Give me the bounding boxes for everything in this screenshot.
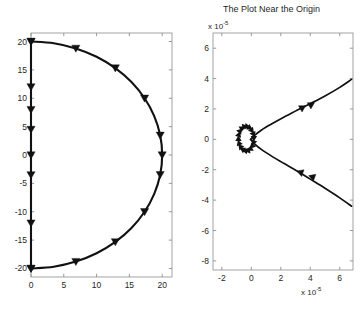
x-tick-label: 10 [92, 280, 102, 290]
y-tick-label: 6 [204, 43, 209, 53]
x-tick-label: 6 [337, 273, 342, 283]
x-tick-label: 2 [278, 273, 283, 283]
y-tick-label: 20 [18, 37, 28, 47]
right-plot-panel: The Plot Near the Origin x 10-5 x 10-5 -… [181, 0, 362, 309]
x-tick-label: 15 [125, 280, 135, 290]
arc-curve [31, 42, 162, 269]
matlab-figure: 0510152020151050-5-10-15-20 The Plot Nea… [0, 0, 362, 309]
origin-marker-cluster [235, 123, 258, 155]
data-marker-triangle-down [27, 126, 35, 133]
y-tick-label: -20 [15, 263, 28, 273]
data-marker-triangle-down [158, 152, 166, 159]
y-tick-label: 0 [204, 134, 209, 144]
x-tick-label: 20 [157, 280, 167, 290]
data-marker-triangle-down [156, 132, 164, 139]
x-tick-label: 0 [29, 280, 34, 290]
y-tick-label: 5 [22, 122, 27, 132]
y-tick-label: 10 [18, 93, 28, 103]
y-tick-label: -8 [201, 256, 209, 266]
data-marker-triangle-down [156, 171, 164, 178]
data-marker-triangle-down [27, 172, 35, 179]
y-tick-label: 2 [204, 104, 209, 114]
data-marker-triangle [305, 100, 314, 109]
y-tick-label: -5 [19, 178, 27, 188]
x-tick-label: 4 [308, 273, 313, 283]
x-tick-label: -2 [218, 273, 226, 283]
data-marker-triangle-down [27, 84, 35, 91]
x-tick-label: 5 [61, 280, 66, 290]
left-plot-axes: 0510152020151050-5-10-15-20 [0, 0, 181, 309]
y-tick-label: -10 [15, 207, 28, 217]
y-tick-label: -15 [15, 235, 28, 245]
data-marker-triangle-down [27, 220, 35, 227]
y-tick-label: -6 [201, 226, 209, 236]
data-marker-triangle-down [27, 106, 35, 113]
y-tick-label: 0 [22, 150, 27, 160]
y-tick-label: 4 [204, 74, 209, 84]
y-tick-label: -4 [201, 195, 209, 205]
y-tick-label: 15 [18, 65, 28, 75]
y-tick-label: -2 [201, 165, 209, 175]
right-plot-axes: -202466420-2-4-6-8 [181, 0, 362, 309]
left-plot-panel: 0510152020151050-5-10-15-20 [0, 0, 181, 309]
x-tick-label: 0 [249, 273, 254, 283]
